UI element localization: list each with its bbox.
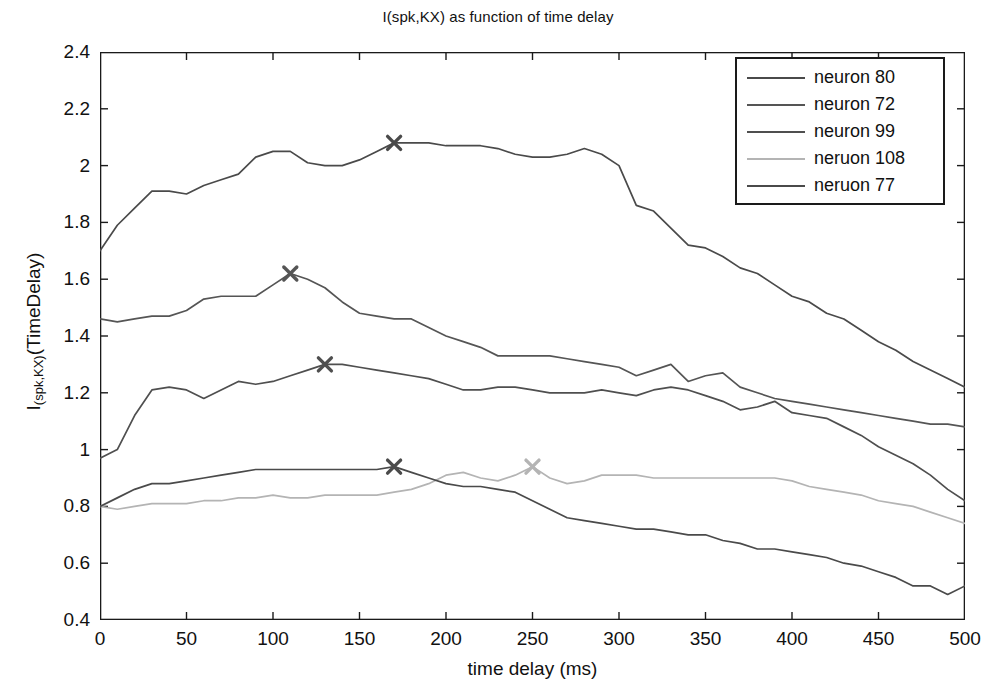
legend-item-label: neuron 72 (814, 94, 895, 115)
y-tick-label: 2 (30, 155, 90, 177)
legend-item-3[interactable]: neruon 108 (737, 145, 943, 172)
legend-item-label: neuron 80 (814, 67, 895, 88)
legend-line-swatch (747, 104, 805, 106)
x-tick-label: 50 (147, 628, 227, 650)
series-line-4 (100, 467, 965, 595)
x-tick-label: 250 (493, 628, 573, 650)
legend-item-2[interactable]: neuron 99 (737, 118, 943, 145)
x-tick-label: 0 (60, 628, 140, 650)
x-axis-tick-labels: 050100150200250300350400450500 (100, 628, 965, 654)
chart-title: I(spk,KX) as function of time delay (0, 8, 996, 25)
x-tick-label: 500 (925, 628, 996, 650)
series-marker-1 (284, 267, 297, 280)
legend-item-label: neruon 108 (814, 148, 905, 169)
legend-item-label: neruon 77 (814, 175, 895, 196)
x-tick-label: 350 (666, 628, 746, 650)
series-line-2 (100, 364, 965, 500)
legend-line-swatch (747, 77, 805, 79)
y-tick-label: 2.4 (30, 41, 90, 63)
y-tick-label: 2.2 (30, 98, 90, 120)
y-tick-label: 1.2 (30, 382, 90, 404)
legend-item-label: neuron 99 (814, 121, 895, 142)
y-axis-tick-labels: 0.40.60.811.21.41.61.822.22.4 (26, 52, 90, 620)
legend-line-swatch (747, 131, 805, 133)
figure-canvas: I(spk,KX) as function of time delay I(sp… (0, 0, 996, 692)
x-tick-label: 400 (752, 628, 832, 650)
legend-line-swatch (747, 158, 805, 160)
y-tick-label: 1 (30, 439, 90, 461)
x-axis-label: time delay (ms) (100, 658, 965, 680)
y-tick-label: 0.8 (30, 495, 90, 517)
x-tick-label: 100 (233, 628, 313, 650)
x-tick-label: 200 (406, 628, 486, 650)
legend-item-1[interactable]: neuron 72 (737, 91, 943, 118)
legend-item-4[interactable]: neruon 77 (737, 172, 943, 199)
x-tick-label: 150 (320, 628, 400, 650)
y-tick-label: 0.6 (30, 552, 90, 574)
legend-item-0[interactable]: neuron 80 (737, 64, 943, 91)
x-tick-label: 450 (839, 628, 919, 650)
legend-line-swatch (747, 185, 805, 187)
legend-box: neuron 80neuron 72neuron 99neruon 108ner… (735, 57, 945, 205)
series-line-3 (100, 467, 965, 524)
series-line-1 (100, 274, 965, 427)
series-marker-3 (526, 460, 539, 473)
y-tick-label: 1.4 (30, 325, 90, 347)
y-tick-label: 1.8 (30, 211, 90, 233)
y-tick-label: 1.6 (30, 268, 90, 290)
x-tick-label: 300 (579, 628, 659, 650)
